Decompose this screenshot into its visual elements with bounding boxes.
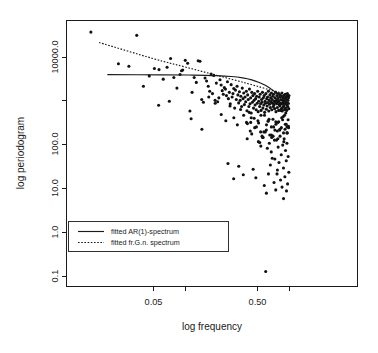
data-point <box>266 96 269 99</box>
y-tick-label-10: 10.0 <box>50 179 60 197</box>
data-point <box>237 165 240 168</box>
data-point <box>278 128 281 131</box>
data-point <box>258 96 261 99</box>
data-point <box>207 96 210 99</box>
data-point <box>253 126 256 129</box>
data-point <box>218 78 221 81</box>
data-point <box>264 92 267 95</box>
data-point <box>281 144 284 147</box>
data-point <box>215 82 218 85</box>
x-axis-title: log frequency <box>182 321 242 332</box>
data-point <box>248 111 251 114</box>
legend: fitted AR(1)-spectrum fitted fr.G.n. spe… <box>69 222 229 252</box>
y-tick-label-1: 1.0 <box>50 226 60 239</box>
data-point <box>184 59 187 62</box>
data-point <box>285 189 288 192</box>
data-point <box>282 140 285 143</box>
y-axis-title: log periodogram <box>15 117 26 189</box>
data-point <box>270 150 273 153</box>
data-point <box>172 76 175 79</box>
data-point <box>276 168 279 171</box>
data-point <box>238 90 241 93</box>
data-point <box>241 87 244 90</box>
data-point <box>242 91 245 94</box>
data-point <box>157 68 160 71</box>
data-point <box>193 76 196 79</box>
x-tick-label-0-05: 0.05 <box>145 297 163 307</box>
data-point <box>287 107 290 110</box>
data-point <box>259 114 262 117</box>
data-point <box>287 118 290 121</box>
data-point <box>279 178 282 181</box>
y-tick-label-0-1: 0.1 <box>50 270 60 283</box>
y-tick-label-100: 100.0 <box>50 133 60 156</box>
data-point <box>214 102 217 105</box>
y-axis-tick-labels: 10000.0 100.0 10.0 1.0 0.1 <box>50 40 60 282</box>
data-point <box>284 149 287 152</box>
data-point <box>256 119 259 122</box>
data-point <box>265 123 268 126</box>
data-point <box>211 92 214 95</box>
data-point <box>191 91 194 94</box>
data-point <box>267 119 270 122</box>
data-point <box>234 89 237 92</box>
data-point <box>224 119 227 122</box>
data-point <box>273 129 276 132</box>
data-point <box>200 128 203 131</box>
data-point <box>249 129 252 132</box>
data-point <box>249 96 252 99</box>
data-point <box>262 130 265 133</box>
data-point <box>186 62 189 65</box>
data-point <box>276 137 279 140</box>
data-point <box>283 175 286 178</box>
data-point <box>232 116 235 119</box>
data-point <box>239 108 242 111</box>
data-point <box>198 60 201 63</box>
legend-box <box>69 222 229 252</box>
data-point <box>135 34 138 37</box>
data-point <box>224 88 227 91</box>
plot-canvas: 10000.0 100.0 10.0 1.0 0.1 log periodogr… <box>0 0 378 353</box>
data-point <box>202 101 205 104</box>
data-point <box>257 100 260 103</box>
data-point <box>270 136 273 139</box>
data-point <box>259 145 262 148</box>
data-point <box>270 108 273 111</box>
data-point <box>254 176 257 179</box>
data-point <box>268 142 271 145</box>
data-point <box>180 69 183 72</box>
data-point <box>287 171 290 174</box>
data-point <box>162 78 165 81</box>
data-point <box>217 96 220 99</box>
data-point <box>246 122 249 125</box>
data-point <box>277 146 280 149</box>
data-point <box>228 91 231 94</box>
data-point <box>236 93 239 96</box>
data-point <box>252 107 255 110</box>
data-point <box>272 181 275 184</box>
data-point <box>281 186 284 189</box>
legend-label-frgn: fitted fr.G.n. spectrum <box>111 238 180 247</box>
data-point <box>175 87 178 90</box>
data-point <box>188 109 191 112</box>
data-point <box>253 92 256 95</box>
data-point <box>246 93 249 96</box>
data-point <box>257 110 260 113</box>
data-point <box>260 101 263 104</box>
data-point <box>157 104 160 107</box>
data-point <box>279 135 282 138</box>
data-point <box>233 107 236 110</box>
data-point <box>226 80 229 83</box>
data-point <box>269 164 272 167</box>
data-point <box>231 92 234 95</box>
data-point <box>250 91 253 94</box>
data-point <box>259 130 262 133</box>
data-point <box>271 118 274 121</box>
data-point <box>200 98 203 101</box>
data-point <box>280 153 283 156</box>
data-point <box>249 121 252 124</box>
data-point <box>221 89 224 92</box>
data-point <box>208 90 211 93</box>
data-point <box>117 62 120 65</box>
data-point <box>226 162 229 165</box>
